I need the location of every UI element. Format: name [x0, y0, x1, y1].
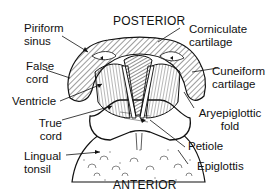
larynx-diagram: POSTERIOR ANTERIOR Piriform sinus False …	[0, 0, 275, 196]
label-true-cord: True cord	[26, 117, 62, 142]
label-piriform-sinus: Piriform sinus	[24, 22, 64, 47]
label-epiglottis: Epiglottis	[197, 160, 244, 173]
label-ventricle: Ventricle	[12, 95, 56, 108]
label-petiole: Petiole	[188, 140, 223, 153]
label-false-cord: False cord	[26, 60, 54, 85]
label-corniculate-cartilage: Corniculate cartilage	[189, 23, 247, 48]
label-aryepiglottic-fold: Aryepiglottic fold	[190, 107, 270, 132]
label-cuneiform-cartilage: Cuneiform cartilage	[212, 65, 265, 90]
label-posterior: POSTERIOR	[113, 14, 185, 28]
label-lingual-tonsil: Lingual tonsil	[24, 150, 61, 175]
label-anterior: ANTERIOR	[113, 178, 177, 192]
